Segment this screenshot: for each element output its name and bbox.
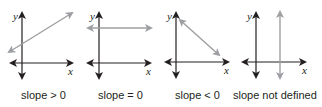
caption-undefined-slope: slope not defined [233,89,317,101]
caption-zero-slope: slope = 0 [98,89,143,101]
x-axis-label: x [301,64,307,76]
x-axis-label: x [145,65,151,77]
y-axis-label: y [12,10,18,22]
caption-negative-slope: slope < 0 [175,89,220,101]
panel-positive-slope: y x [9,10,73,78]
falling-line [180,20,219,55]
panel-undefined-slope: y x [243,10,307,78]
caption-positive-slope: slope > 0 [21,89,66,101]
x-axis-label: x [223,64,229,76]
panel-negative-slope: y x [166,10,229,77]
y-axis-label: y [89,10,95,22]
y-axis-label: y [246,10,252,22]
panel-zero-slope: y x [88,10,151,78]
y-axis-label: y [166,10,172,22]
x-axis-label: x [67,65,73,77]
rising-line [9,13,72,52]
